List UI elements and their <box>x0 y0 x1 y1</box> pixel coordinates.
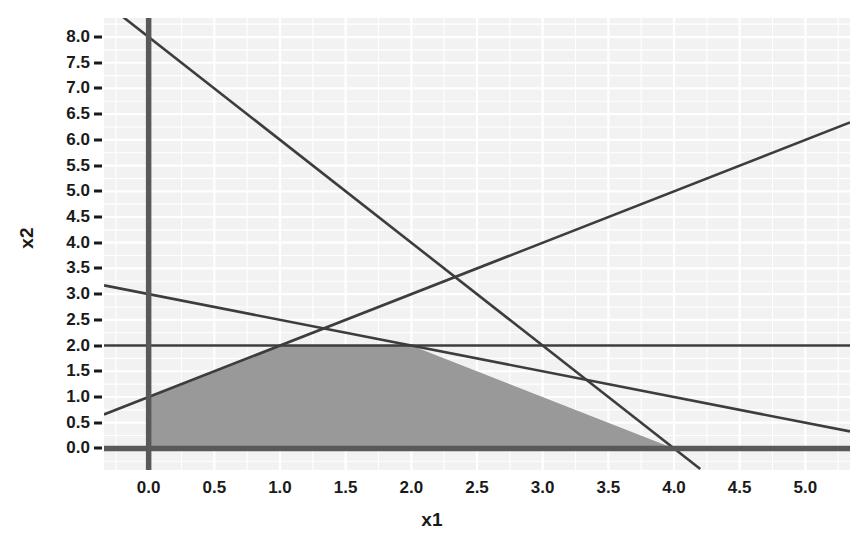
y-tick-mark <box>94 241 102 244</box>
y-tick-mark <box>94 421 102 424</box>
plot-area-svg <box>104 18 850 470</box>
y-tick-mark <box>94 370 102 373</box>
x-tick-label: 0.5 <box>202 478 226 498</box>
y-tick-mark <box>94 190 102 193</box>
x-tick-label: 3.0 <box>531 478 555 498</box>
x-tick-label: 1.0 <box>268 478 292 498</box>
x-tick-label: 0.0 <box>137 478 161 498</box>
linear-programming-chart: x2 x1 0.00.51.01.52.02.53.03.54.04.55.05… <box>0 0 864 544</box>
y-tick-mark <box>94 216 102 219</box>
x-tick-label: 4.5 <box>728 478 752 498</box>
y-tick-mark <box>94 61 102 64</box>
plot-panel <box>104 18 850 470</box>
y-tick-mark <box>94 113 102 116</box>
y-tick-mark <box>94 164 102 167</box>
x-tick-label: 1.5 <box>334 478 358 498</box>
y-tick-mark <box>94 293 102 296</box>
y-tick-mark <box>94 447 102 450</box>
y-tick-mark <box>94 87 102 90</box>
y-tick-mark <box>94 344 102 347</box>
x-tick-label: 3.5 <box>597 478 621 498</box>
y-tick-mark <box>94 267 102 270</box>
x-tick-label: 5.0 <box>794 478 818 498</box>
y-tick-mark <box>94 138 102 141</box>
x-tick-label: 2.0 <box>400 478 424 498</box>
y-tick-mark <box>94 318 102 321</box>
x-tick-label: 4.0 <box>662 478 686 498</box>
y-tick-mark <box>94 395 102 398</box>
y-tick-mark <box>94 36 102 39</box>
x-tick-label: 2.5 <box>465 478 489 498</box>
